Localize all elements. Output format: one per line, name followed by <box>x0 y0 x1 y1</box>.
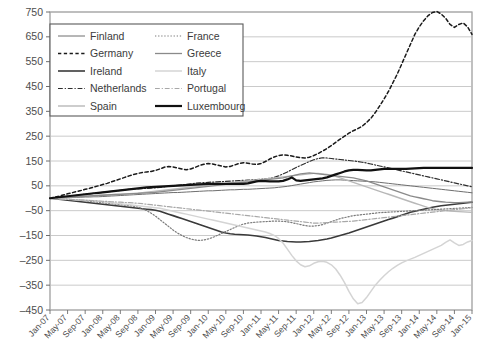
y-tick-label: 550 <box>25 55 43 67</box>
chart-figure: 75065055045035025015050–50–150–250–350–4… <box>0 0 490 353</box>
line-chart: 75065055045035025015050–50–150–250–350–4… <box>0 0 490 353</box>
chart-legend: FinlandGermanyIrelandNetherlandsSpainFra… <box>50 24 246 116</box>
y-tick-label: 50 <box>31 179 43 191</box>
legend-label-netherlands: Netherlands <box>90 82 147 94</box>
y-tick-label: 750 <box>25 6 43 18</box>
legend-label-finland: Finland <box>90 30 125 42</box>
y-tick-label: 250 <box>25 130 43 142</box>
legend-label-ireland: Ireland <box>90 65 122 77</box>
legend-label-italy: Italy <box>187 65 207 77</box>
y-tick-label: –150 <box>20 229 44 241</box>
y-tick-label: 450 <box>25 80 43 92</box>
legend-label-portugal: Portugal <box>187 82 226 94</box>
legend-label-greece: Greece <box>187 47 222 59</box>
legend-label-germany: Germany <box>90 47 134 59</box>
legend-label-france: France <box>187 30 220 42</box>
y-axis-ticks: 75065055045035025015050–50–150–250–350–4… <box>20 6 50 316</box>
y-tick-label: 650 <box>25 30 43 42</box>
y-tick-label: 150 <box>25 155 43 167</box>
x-axis-ticks: Jan-07May-07Sep-07Jan-08May-08Sep-08Jan-… <box>26 310 473 340</box>
y-tick-label: 350 <box>25 105 43 117</box>
legend-label-spain: Spain <box>90 100 117 112</box>
y-tick-label: –50 <box>25 204 43 216</box>
y-tick-label: –250 <box>20 254 44 266</box>
y-tick-label: –450 <box>20 304 44 316</box>
legend-label-luxembourg: Luxembourg <box>187 100 246 112</box>
y-tick-label: –350 <box>20 279 44 291</box>
